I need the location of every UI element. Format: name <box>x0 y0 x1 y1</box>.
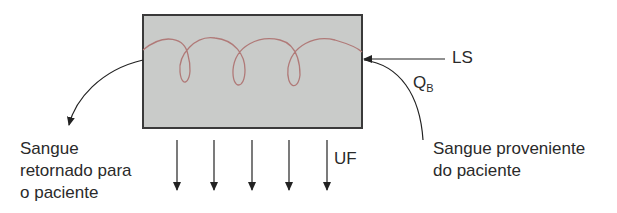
ls-label: LS <box>452 47 473 69</box>
blood-return-label: Sangue retornado para o paciente <box>20 138 132 204</box>
blood-out-arrow <box>69 60 143 125</box>
qb-subscript: B <box>426 82 433 94</box>
blood-return-line1: Sangue <box>20 138 132 160</box>
uf-arrows <box>177 140 327 190</box>
blood-return-line2: retornado para <box>20 160 132 182</box>
uf-label: UF <box>334 148 357 170</box>
blood-source-line2: do paciente <box>433 160 585 182</box>
blood-source-label: Sangue proveniente do paciente <box>433 138 585 182</box>
qb-main: Q <box>413 73 426 92</box>
dialyzer-box <box>143 15 362 128</box>
qb-label: QB <box>413 72 434 99</box>
blood-return-line3: o paciente <box>20 182 132 204</box>
blood-source-line1: Sangue proveniente <box>433 138 585 160</box>
